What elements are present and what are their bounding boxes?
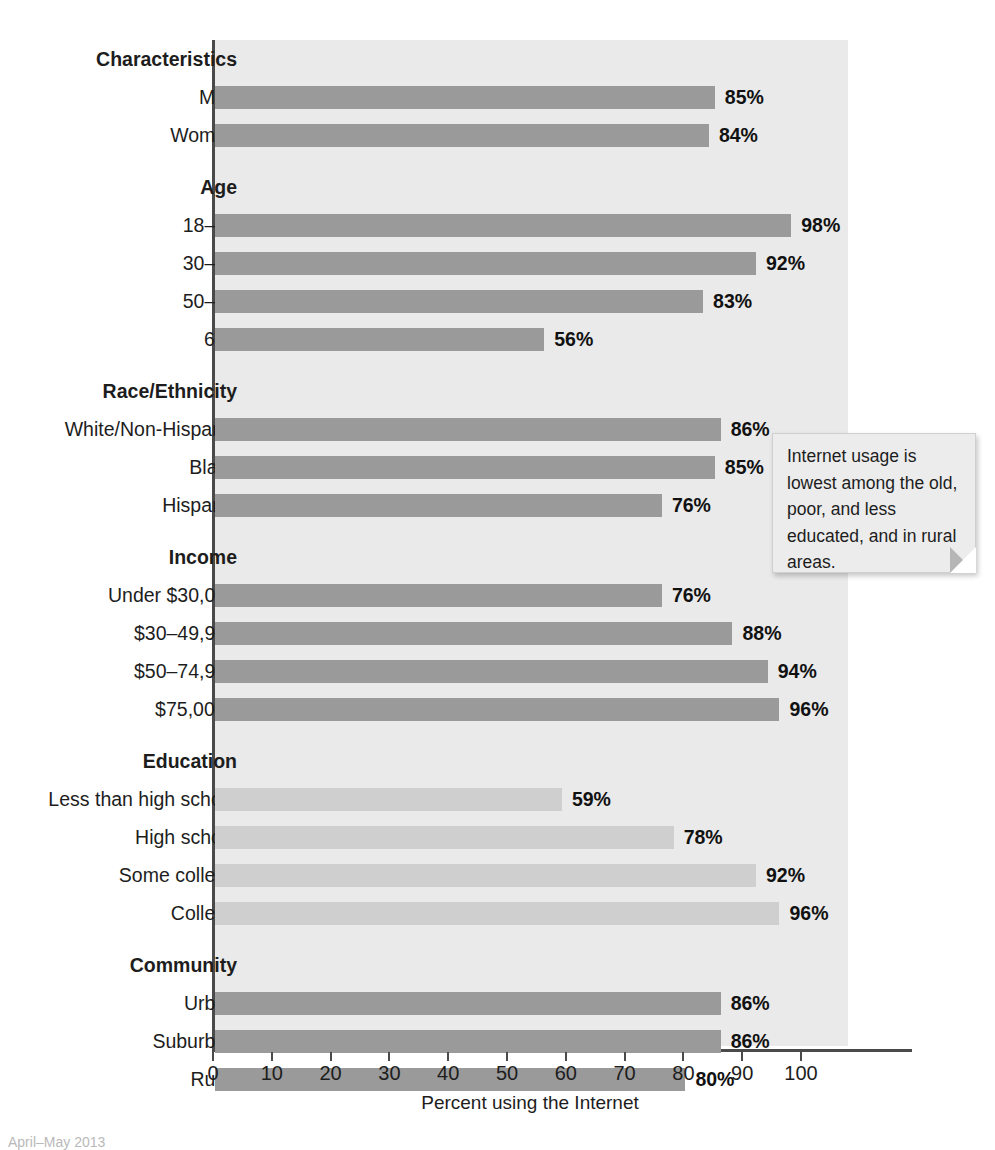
- bar-row: 18–2998%: [0, 210, 995, 240]
- bar: [215, 494, 662, 517]
- x-tick: [624, 1052, 626, 1061]
- bar-row: $75,000+96%: [0, 694, 995, 724]
- bar: [215, 418, 721, 441]
- category-label: Men: [0, 82, 237, 112]
- x-tick-label: 60: [536, 1062, 596, 1085]
- bar: [215, 660, 768, 683]
- group-header: Race/Ethnicity: [0, 376, 995, 406]
- bar: [215, 1030, 721, 1053]
- bar-value-label: 76%: [672, 490, 711, 520]
- bar-value-label: 59%: [572, 784, 611, 814]
- bar-row: $50–74,99994%: [0, 656, 995, 686]
- category-label: Hispanic: [0, 490, 237, 520]
- category-label: Under $30,000: [0, 580, 237, 610]
- bar-chart: CharacteristicsMen85%Women84%Age18–2998%…: [0, 0, 995, 1150]
- category-label: 50–64: [0, 286, 237, 316]
- x-tick: [800, 1052, 802, 1061]
- bar-value-label: 96%: [789, 694, 828, 724]
- x-tick: [506, 1052, 508, 1061]
- bar-value-label: 83%: [713, 286, 752, 316]
- group-header-label: Characteristics: [0, 44, 237, 74]
- bar-row: Urban86%: [0, 988, 995, 1018]
- bar: [215, 214, 791, 237]
- group-header: Characteristics: [0, 44, 995, 74]
- category-label: 18–29: [0, 210, 237, 240]
- category-label: White/Non-Hispanic: [0, 414, 237, 444]
- category-label: $75,000+: [0, 694, 237, 724]
- bar-value-label: 86%: [731, 414, 770, 444]
- x-tick-label: 50: [477, 1062, 537, 1085]
- bar-value-label: 96%: [789, 898, 828, 928]
- source-note: April–May 2013: [8, 1134, 105, 1150]
- category-label: Suburban: [0, 1026, 237, 1056]
- x-tick: [447, 1052, 449, 1061]
- bar-row: Less than high school59%: [0, 784, 995, 814]
- bar-value-label: 85%: [725, 82, 764, 112]
- category-label: Women: [0, 120, 237, 150]
- bar-row: $30–49,99988%: [0, 618, 995, 648]
- bar-row: High school78%: [0, 822, 995, 852]
- callout-fold-corner: [950, 547, 976, 573]
- bar-value-label: 85%: [725, 452, 764, 482]
- group-header-label: Age: [0, 172, 237, 202]
- bar-value-label: 86%: [731, 988, 770, 1018]
- annotation-text: Internet usage is lowest among the old, …: [787, 443, 963, 576]
- bar: [215, 902, 779, 925]
- bar-row: 65+56%: [0, 324, 995, 354]
- bar: [215, 86, 715, 109]
- bar: [215, 584, 662, 607]
- category-label: Black: [0, 452, 237, 482]
- x-tick-label: 20: [301, 1062, 361, 1085]
- x-tick: [682, 1052, 684, 1061]
- category-label: Less than high school: [0, 784, 237, 814]
- category-label: High school: [0, 822, 237, 852]
- category-label: Some college: [0, 860, 237, 890]
- bar-row: Women84%: [0, 120, 995, 150]
- bar: [215, 290, 703, 313]
- group-header-label: Education: [0, 746, 237, 776]
- bar: [215, 456, 715, 479]
- bar: [215, 328, 544, 351]
- x-tick: [741, 1052, 743, 1061]
- bar: [215, 992, 721, 1015]
- bar-row: Men85%: [0, 82, 995, 112]
- group-header: Age: [0, 172, 995, 202]
- bar-row: College96%: [0, 898, 995, 928]
- bar-row: 50–6483%: [0, 286, 995, 316]
- x-tick: [212, 1052, 214, 1061]
- category-label: $50–74,999: [0, 656, 237, 686]
- bar: [215, 698, 779, 721]
- bar: [215, 252, 756, 275]
- x-tick: [271, 1052, 273, 1061]
- bar-value-label: 98%: [801, 210, 840, 240]
- bar-value-label: 92%: [766, 860, 805, 890]
- bar-row: Under $30,00076%: [0, 580, 995, 610]
- bar-value-label: 94%: [778, 656, 817, 686]
- bar: [215, 788, 562, 811]
- bar-value-label: 76%: [672, 580, 711, 610]
- x-tick: [330, 1052, 332, 1061]
- category-label: 30–49: [0, 248, 237, 278]
- x-tick-label: 100: [771, 1062, 831, 1085]
- group-header: Education: [0, 746, 995, 776]
- bar-value-label: 88%: [742, 618, 781, 648]
- bar-value-label: 92%: [766, 248, 805, 278]
- group-header-label: Income: [0, 542, 237, 572]
- bar: [215, 826, 674, 849]
- bar-value-label: 78%: [684, 822, 723, 852]
- x-tick: [565, 1052, 567, 1061]
- bar: [215, 864, 756, 887]
- bar-value-label: 86%: [731, 1026, 770, 1056]
- x-axis-title: Percent using the Internet: [212, 1092, 848, 1114]
- x-tick-label: 70: [595, 1062, 655, 1085]
- group-header-label: Community: [0, 950, 237, 980]
- group-header: Community: [0, 950, 995, 980]
- bar-row: 30–4992%: [0, 248, 995, 278]
- bar: [215, 124, 709, 147]
- x-tick-label: 30: [359, 1062, 419, 1085]
- group-header-label: Race/Ethnicity: [0, 376, 237, 406]
- x-tick-label: 10: [242, 1062, 302, 1085]
- bar-value-label: 56%: [554, 324, 593, 354]
- category-label: 65+: [0, 324, 237, 354]
- annotation-callout: Internet usage is lowest among the old, …: [772, 433, 976, 573]
